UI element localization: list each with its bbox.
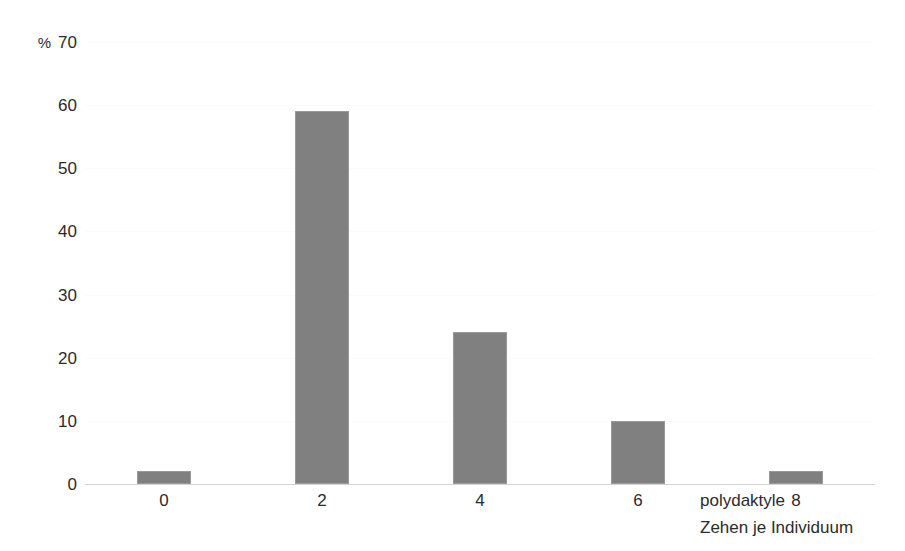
bar (769, 471, 823, 484)
y-axis-tick-label: 0 (68, 476, 77, 493)
x-axis-tick-label: 0 (159, 492, 168, 509)
y-axis-tick-value: 70 (58, 33, 77, 52)
y-axis-tick-label: %70 (38, 34, 77, 51)
y-axis-tick-label: 30 (58, 286, 77, 303)
x-axis-tick-label: 8 (791, 492, 800, 509)
x-axis-title-line-1: polydaktyle (700, 487, 853, 514)
x-axis-title: polydaktyle Zehen je Individuum (700, 487, 853, 541)
y-axis-tick-label: 10 (58, 412, 77, 429)
y-axis-tick-label: 20 (58, 349, 77, 366)
y-axis-tick-label: 40 (58, 223, 77, 240)
y-axis: %706050403020100 (0, 0, 85, 551)
x-axis-tick-label: 6 (633, 492, 642, 509)
bar (611, 421, 665, 484)
bar (137, 471, 191, 484)
x-axis-tick-label: 4 (475, 492, 484, 509)
y-axis-tick-label: 60 (58, 97, 77, 114)
gridline (85, 42, 875, 43)
x-axis-title-line-2: Zehen je Individuum (700, 514, 853, 541)
x-axis-line (85, 484, 875, 485)
gridline (85, 231, 875, 232)
y-axis-unit-label: % (38, 34, 51, 51)
bar-chart: %706050403020100 polydaktyle Zehen je In… (0, 0, 905, 551)
bar (453, 332, 507, 484)
bar (295, 111, 349, 484)
y-axis-tick-label: 50 (58, 160, 77, 177)
gridline (85, 168, 875, 169)
plot-area (85, 42, 875, 484)
gridline (85, 105, 875, 106)
gridline (85, 295, 875, 296)
x-axis-tick-label: 2 (317, 492, 326, 509)
